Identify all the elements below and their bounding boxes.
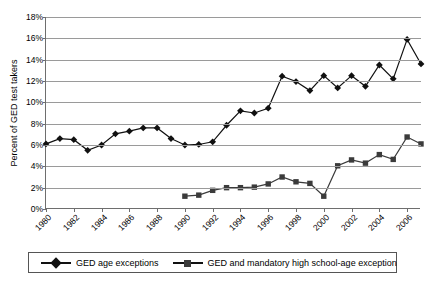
- x-tick-label: 1980: [27, 213, 53, 239]
- chart-canvas: Percent of GED test takers 18%16%14%12%1…: [0, 0, 425, 283]
- y-tick-label: 18%: [11, 13, 43, 21]
- x-tick-label: 1984: [83, 213, 109, 239]
- square-marker-icon: [293, 179, 298, 184]
- chart-legend: GED age exceptions GED and mandatory hig…: [28, 252, 397, 273]
- y-tick-mark: [43, 166, 46, 167]
- diamond-marker-icon: [140, 125, 147, 132]
- square-marker-icon: [377, 152, 382, 157]
- square-marker-icon: [182, 194, 187, 199]
- x-tick-label: 1986: [111, 213, 137, 239]
- y-tick-label: 2%: [11, 184, 43, 192]
- x-tick-label: 1982: [55, 213, 81, 239]
- legend-item-ged-age-exceptions: GED age exceptions: [41, 257, 159, 268]
- square-marker-icon: [173, 257, 203, 268]
- diamond-marker-icon: [56, 135, 63, 142]
- legend-label: GED and mandatory high school-age except…: [208, 258, 397, 268]
- gridline: [46, 145, 421, 146]
- x-tick-label: 2006: [388, 213, 414, 239]
- gridline: [46, 17, 421, 18]
- y-tick-label: 0%: [11, 205, 43, 213]
- diamond-marker-icon: [404, 36, 411, 43]
- y-tick-mark: [43, 38, 46, 39]
- y-tick-label: 6%: [11, 141, 43, 149]
- square-marker-icon: [266, 181, 271, 186]
- y-tick-label: 12%: [11, 77, 43, 85]
- square-marker-icon: [363, 160, 368, 165]
- y-tick-mark: [43, 124, 46, 125]
- gridline: [46, 166, 421, 167]
- legend-item-ged-mandatory-hs-age-exception: GED and mandatory high school-age except…: [173, 257, 397, 268]
- x-tick-label: 2000: [305, 213, 331, 239]
- y-tick-label: 16%: [11, 34, 43, 42]
- x-tick-label: 2002: [333, 213, 359, 239]
- x-tick-label: 1994: [222, 213, 248, 239]
- square-marker-icon: [307, 181, 312, 186]
- diamond-marker-icon: [418, 61, 425, 68]
- diamond-marker-icon: [279, 73, 286, 80]
- square-marker-icon: [349, 157, 354, 162]
- gridline: [46, 81, 421, 82]
- square-marker-icon: [391, 157, 396, 162]
- square-marker-icon: [279, 174, 284, 179]
- gridline: [46, 124, 421, 125]
- series-line: [46, 39, 421, 150]
- x-tick-label: 1992: [194, 213, 220, 239]
- y-tick-mark: [43, 17, 46, 18]
- y-tick-label: 4%: [11, 162, 43, 170]
- diamond-marker-icon: [126, 128, 133, 135]
- gridline: [46, 102, 421, 103]
- square-marker-icon: [196, 192, 201, 197]
- y-tick-mark: [43, 188, 46, 189]
- y-tick-mark: [43, 145, 46, 146]
- y-tick-mark: [43, 102, 46, 103]
- y-tick-label: 8%: [11, 120, 43, 128]
- y-tick-label: 10%: [11, 98, 43, 106]
- square-marker-icon: [404, 134, 409, 139]
- y-tick-label: 14%: [11, 56, 43, 64]
- x-tick-label: 1996: [249, 213, 275, 239]
- x-tick-mark: [240, 209, 241, 212]
- x-tick-label: 2004: [361, 213, 387, 239]
- gridline: [46, 188, 421, 189]
- gridline: [46, 38, 421, 39]
- y-tick-mark: [43, 81, 46, 82]
- diamond-marker-icon: [265, 105, 272, 112]
- plot-area: [45, 17, 420, 209]
- square-marker-icon: [321, 194, 326, 199]
- x-tick-label: 1988: [138, 213, 164, 239]
- series-layer: [46, 17, 421, 209]
- diamond-marker-icon: [251, 110, 258, 117]
- x-tick-label: 1998: [277, 213, 303, 239]
- y-tick-mark: [43, 60, 46, 61]
- diamond-marker-icon: [41, 257, 71, 268]
- x-tick-label: 1990: [166, 213, 192, 239]
- chart-root: Percent of GED test takers 18%16%14%12%1…: [0, 0, 425, 283]
- gridline: [46, 60, 421, 61]
- diamond-marker-icon: [43, 141, 50, 148]
- legend-label: GED age exceptions: [76, 258, 159, 268]
